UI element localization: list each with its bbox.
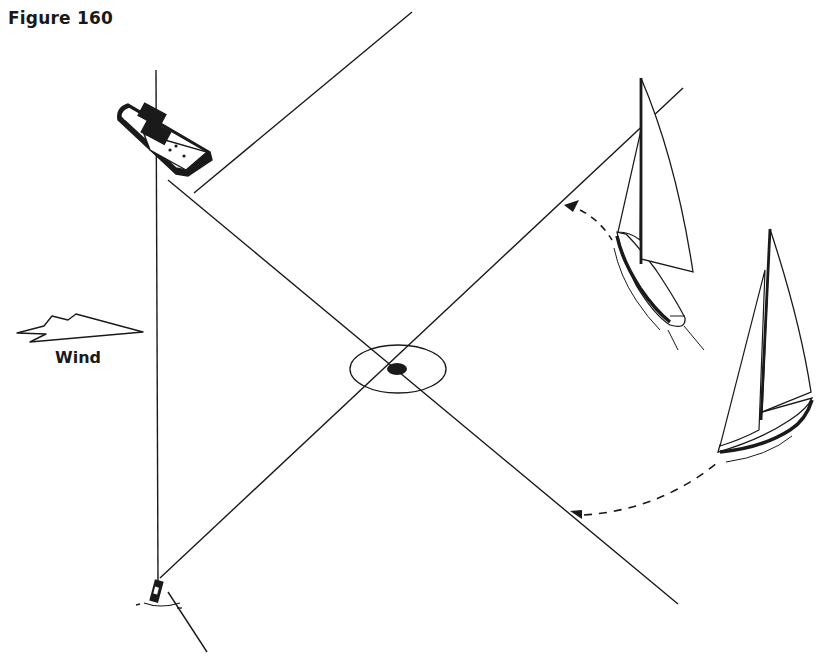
sailboat-icon-upper: [614, 78, 704, 350]
buoy-icon: [136, 579, 182, 608]
starting-line-diagram: [0, 0, 826, 669]
course-path-lower: [570, 462, 718, 519]
arrowhead-upper-icon: [564, 200, 579, 212]
sailboat-icon-lower: [718, 229, 812, 462]
diagonal-line-a: [168, 180, 678, 604]
course-path-upper: [564, 200, 612, 240]
extension-line: [194, 12, 412, 193]
buoy-tail-line: [168, 592, 207, 652]
motorboat-icon: [118, 103, 212, 176]
center-mark: [350, 345, 446, 393]
wind-label: Wind: [55, 348, 101, 367]
diagonal-line-b: [160, 88, 683, 578]
wind-arrow-icon: [17, 314, 143, 342]
arrowhead-lower-icon: [570, 510, 582, 519]
